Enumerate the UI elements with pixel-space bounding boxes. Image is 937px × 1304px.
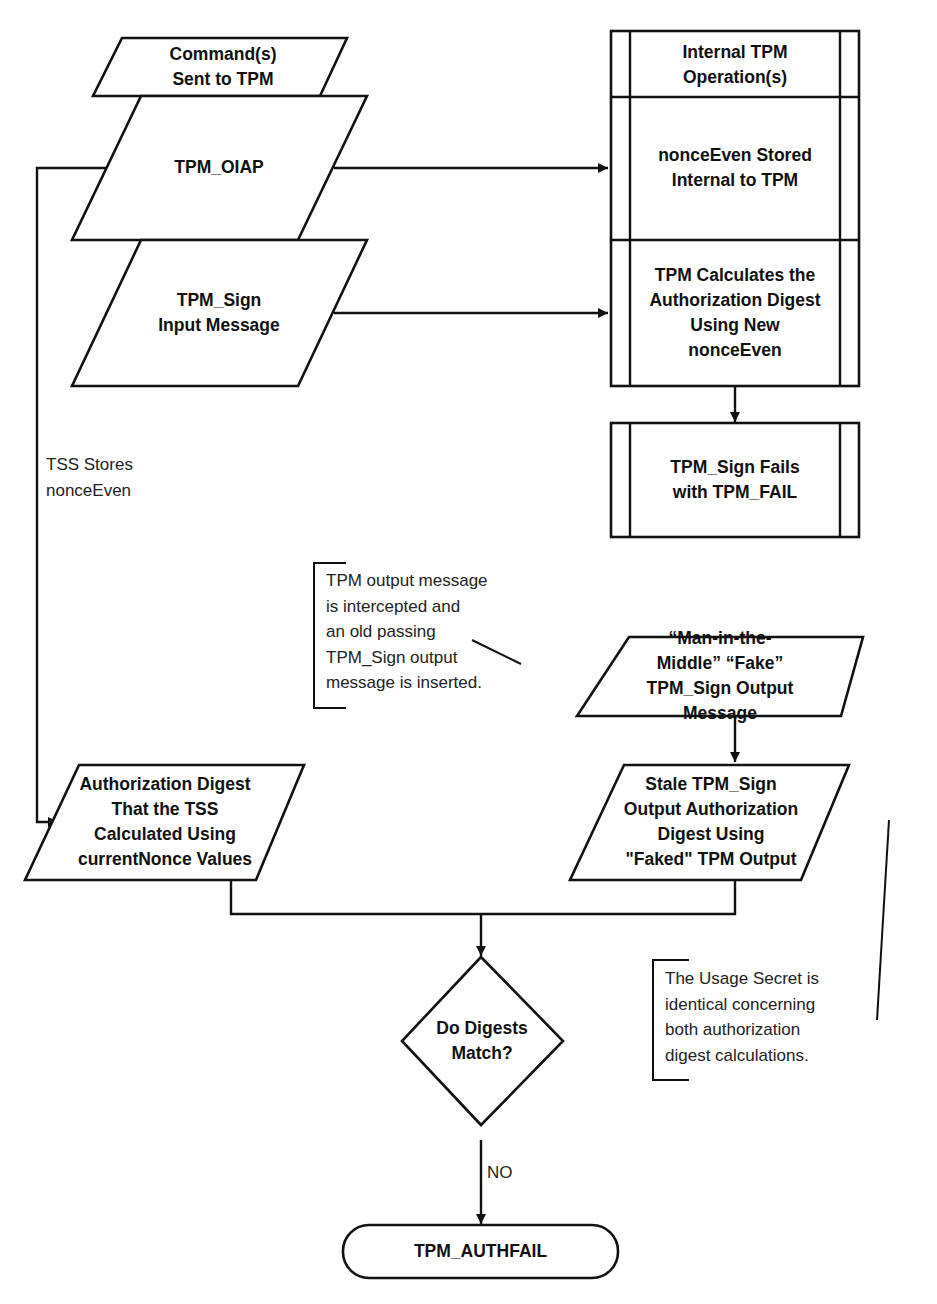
commands-header-label: Command(s) Sent to TPM bbox=[110, 42, 336, 92]
authfail-label: TPM_AUTHFAIL bbox=[343, 1239, 618, 1264]
stale-digest-label: Stale TPM_Sign Output Authorization Dige… bbox=[596, 772, 826, 872]
annotation-usage-secret: The Usage Secret is identical concerning… bbox=[665, 966, 819, 1068]
sign-fails-label: TPM_Sign Fails with TPM_FAIL bbox=[632, 455, 838, 505]
edge-label-tss-stores: TSS Stores nonceEven bbox=[46, 452, 133, 503]
mitm-output-label: “Man-in-the- Middle” “Fake” TPM_Sign Out… bbox=[604, 626, 836, 726]
tpm-calculates-label: TPM Calculates the Authorization Digest … bbox=[630, 263, 840, 363]
merge-line bbox=[231, 881, 735, 914]
annotation-intercepted: TPM output message is intercepted and an… bbox=[326, 568, 488, 696]
tss-digest-label: Authorization Digest That the TSS Calcul… bbox=[50, 772, 280, 872]
digests-match-label: Do Digests Match? bbox=[412, 1016, 552, 1066]
tpm-sign-input-label: TPM_Sign Input Message bbox=[96, 288, 342, 338]
internal-header-label: Internal TPM Operation(s) bbox=[632, 40, 838, 90]
tpm-oiap-label: TPM_OIAP bbox=[96, 155, 342, 180]
nonce-stored-label: nonceEven Stored Internal to TPM bbox=[632, 143, 838, 193]
leader-usage-secret bbox=[877, 820, 889, 1020]
edge-label-no: NO bbox=[487, 1160, 513, 1186]
